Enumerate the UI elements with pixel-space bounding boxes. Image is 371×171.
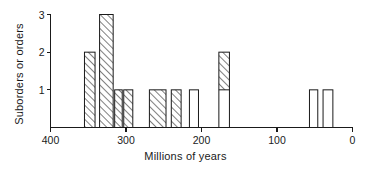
bar-segment-hatched xyxy=(84,52,95,127)
histogram-chart: 4003002001000 123 Millions of years Subo… xyxy=(0,0,371,171)
bar-segment-hatched xyxy=(115,90,123,128)
x-axis-tick-label: 400 xyxy=(42,135,60,146)
bar xyxy=(124,90,133,128)
bar xyxy=(189,90,198,128)
y-axis-tick-label: 1 xyxy=(32,85,45,96)
y-axis-tick-label: 2 xyxy=(32,47,45,58)
bar xyxy=(84,52,95,127)
x-axis-tick-label: 300 xyxy=(117,135,135,146)
y-axis-title: Suborders or orders xyxy=(13,9,25,139)
bars-group xyxy=(84,15,332,128)
bar xyxy=(100,15,114,128)
bar-segment-plain xyxy=(189,90,198,128)
bar xyxy=(219,52,230,127)
bar-segment-hatched xyxy=(100,15,114,128)
bar-segment-hatched xyxy=(219,52,230,90)
x-axis-title: Millions of years xyxy=(0,150,371,162)
bar xyxy=(115,90,123,128)
bar-segment-hatched xyxy=(171,90,181,128)
bar-segment-plain xyxy=(323,90,333,128)
bar xyxy=(309,90,317,128)
bar-segment-hatched xyxy=(124,90,133,128)
bar-segment-plain xyxy=(219,90,230,128)
x-axis-tick-label: 200 xyxy=(193,135,211,146)
x-axis-tick-label: 100 xyxy=(268,135,286,146)
bar-segment-hatched xyxy=(149,90,166,128)
bar xyxy=(171,90,181,128)
x-axis-tick-label: 0 xyxy=(350,135,356,146)
bar xyxy=(149,90,166,128)
y-axis-tick-label: 3 xyxy=(32,9,45,20)
bar xyxy=(323,90,333,128)
bar-segment-plain xyxy=(309,90,317,128)
